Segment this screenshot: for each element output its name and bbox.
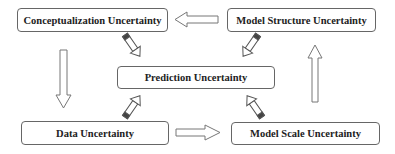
node-label: Model Scale Uncertainty — [250, 128, 361, 139]
node-label: Data Uncertainty — [56, 128, 134, 139]
arrow-conceptualization-to-data — [56, 50, 71, 108]
node-prediction-uncertainty: Prediction Uncertainty — [117, 66, 275, 89]
node-label: Prediction Uncertainty — [145, 72, 248, 83]
pencil-arrow-scale-to-prediction — [242, 92, 267, 120]
pencil-arrow-data-to-prediction — [120, 92, 145, 120]
node-model-structure-uncertainty: Model Structure Uncertainty — [227, 8, 376, 32]
arrow-scale-to-structure — [308, 45, 322, 102]
node-label: Model Structure Uncertainty — [236, 15, 366, 26]
node-label: Conceptualization Uncertainty — [24, 15, 162, 26]
node-model-scale-uncertainty: Model Scale Uncertainty — [231, 122, 380, 145]
node-conceptualization-uncertainty: Conceptualization Uncertainty — [17, 8, 168, 32]
arrow-data-to-scale — [176, 125, 220, 140]
pencil-arrow-structure-to-prediction — [238, 32, 263, 60]
pencil-arrow-conceptualization-to-prediction — [120, 32, 145, 60]
arrow-structure-to-conceptualization — [175, 12, 218, 27]
node-data-uncertainty: Data Uncertainty — [21, 121, 169, 145]
